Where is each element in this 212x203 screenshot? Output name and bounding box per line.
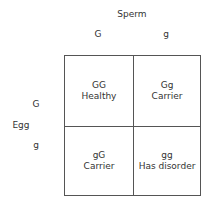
genotype: gg	[139, 150, 196, 161]
status: Carrier	[152, 91, 183, 102]
cell-gG: gG Carrier	[84, 150, 115, 172]
status: Carrier	[84, 161, 115, 172]
sperm-allele-2: g	[163, 29, 169, 39]
genotype: GG	[82, 80, 117, 91]
egg-allele-1: G	[33, 99, 40, 109]
cell-Gg: Gg Carrier	[152, 80, 183, 102]
sperm-label: Sperm	[117, 9, 146, 19]
genotype: gG	[84, 150, 115, 161]
egg-allele-2: g	[33, 140, 39, 150]
genotype: Gg	[152, 80, 183, 91]
status: Healthy	[82, 91, 117, 102]
sperm-allele-1: G	[95, 29, 102, 39]
punnett-grid: GG Healthy Gg Carrier gG Carrier gg Has …	[64, 55, 201, 196]
egg-label: Egg	[12, 120, 29, 130]
status: Has disorder	[139, 161, 196, 172]
cell-GG: GG Healthy	[82, 80, 117, 102]
cell-gg: gg Has disorder	[139, 150, 196, 172]
grid-divider-horizontal	[65, 126, 200, 127]
